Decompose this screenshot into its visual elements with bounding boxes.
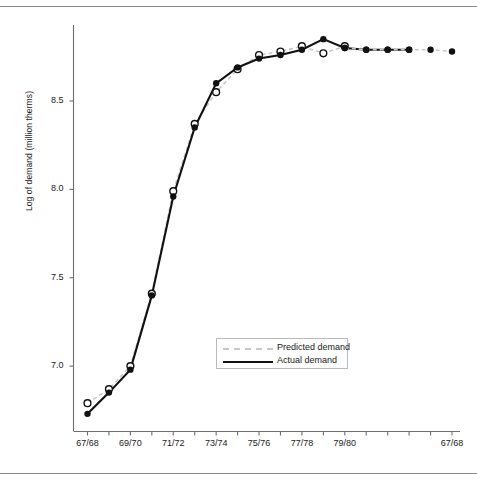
chart-legend: Predicted demand Actual demand bbox=[216, 338, 348, 369]
data-point-marker bbox=[277, 52, 283, 58]
x-tick-label: 67/68 bbox=[65, 438, 111, 448]
data-point-marker bbox=[342, 45, 348, 51]
legend-swatch-solid-icon bbox=[223, 361, 273, 363]
x-tick-label: 75/76 bbox=[236, 438, 282, 448]
legend-label-predicted: Predicted demand bbox=[277, 342, 350, 352]
data-point-marker bbox=[320, 50, 327, 57]
data-point-marker bbox=[170, 193, 176, 199]
x-tick-label: 73/74 bbox=[193, 438, 239, 448]
x-tick-label: 79/80 bbox=[322, 438, 368, 448]
y-tick-label: 7.5 bbox=[34, 272, 64, 282]
data-point-marker bbox=[384, 47, 390, 53]
data-point-marker bbox=[84, 411, 90, 417]
data-point-marker bbox=[213, 89, 220, 96]
data-point-marker bbox=[84, 400, 91, 407]
legend-item-predicted-demand: Predicted demand bbox=[217, 341, 349, 355]
y-axis-title: Log of demand (million therms) bbox=[24, 76, 34, 226]
y-tick-label: 8.0 bbox=[34, 183, 64, 193]
data-point-marker bbox=[106, 389, 112, 395]
data-point-marker bbox=[449, 48, 455, 54]
x-tick-label: 71/72 bbox=[150, 438, 196, 448]
x-tick-label: 67/68 bbox=[429, 438, 475, 448]
chart-plot-area bbox=[0, 8, 477, 470]
data-point-marker bbox=[299, 47, 305, 53]
figure-page: Log of demand (million therms) 7.07.58.0… bbox=[0, 0, 477, 484]
x-tick-label: 69/70 bbox=[107, 438, 153, 448]
data-point-marker bbox=[192, 124, 198, 130]
data-point-marker bbox=[256, 55, 262, 61]
data-point-marker bbox=[149, 292, 155, 298]
legend-item-actual-demand: Actual demand bbox=[217, 354, 349, 368]
data-point-marker bbox=[213, 80, 219, 86]
bottom-divider bbox=[0, 473, 477, 474]
x-axis-ticks bbox=[88, 432, 453, 436]
data-point-marker bbox=[320, 36, 326, 42]
legend-label-actual: Actual demand bbox=[277, 355, 337, 365]
data-point-marker bbox=[363, 47, 369, 53]
chart-figure: Log of demand (million therms) 7.07.58.0… bbox=[0, 8, 477, 470]
data-point-marker bbox=[234, 64, 240, 70]
legend-swatch-dashed-icon bbox=[223, 348, 273, 350]
data-point-marker bbox=[406, 47, 412, 53]
x-tick-label: 77/78 bbox=[279, 438, 325, 448]
data-point-marker bbox=[427, 47, 433, 53]
y-tick-label: 7.0 bbox=[34, 360, 64, 370]
y-axis-ticks bbox=[70, 101, 74, 366]
data-point-marker bbox=[127, 366, 133, 372]
top-divider bbox=[0, 6, 477, 7]
y-tick-label: 8.5 bbox=[34, 95, 64, 105]
